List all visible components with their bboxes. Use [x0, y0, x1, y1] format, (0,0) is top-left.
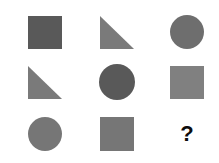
- circle-shape: [28, 117, 62, 151]
- puzzle-grid: ?: [0, 0, 219, 163]
- circle-shape: [99, 64, 135, 100]
- triangle-shape: [28, 66, 62, 99]
- square-shape: [100, 117, 134, 151]
- puzzle-cell-r1c2[interactable]: [82, 6, 152, 58]
- square-shape: [170, 66, 204, 99]
- circle-shape: [170, 15, 204, 49]
- puzzle-cell-r3c2[interactable]: [82, 108, 152, 160]
- puzzle-cell-r2c1[interactable]: [10, 56, 80, 108]
- puzzle-cell-r1c1[interactable]: [10, 6, 80, 58]
- puzzle-cell-r3c3-answer[interactable]: ?: [152, 108, 219, 160]
- puzzle-cell-r2c2[interactable]: [82, 56, 152, 108]
- triangle-shape: [100, 16, 134, 49]
- puzzle-cell-r2c3[interactable]: [152, 56, 219, 108]
- square-shape: [28, 16, 62, 49]
- puzzle-cell-r1c3[interactable]: [152, 6, 219, 58]
- question-mark-placeholder: ?: [180, 123, 193, 145]
- puzzle-cell-r3c1[interactable]: [10, 108, 80, 160]
